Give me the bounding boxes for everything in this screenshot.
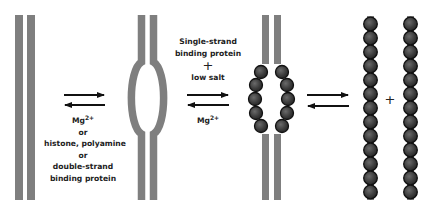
step2-reverse-condition: Mg2+ bbox=[186, 112, 230, 127]
double-strand-label: double-strand bbox=[44, 161, 122, 173]
histone-polyamine-label: histone, polyamine bbox=[44, 138, 122, 150]
stage-4-coated-strand-right bbox=[404, 16, 418, 200]
strand-left bbox=[15, 15, 23, 200]
mg-label: Mg2+ bbox=[44, 112, 122, 127]
stage-2-bubble bbox=[131, 15, 163, 200]
stage-1-double-strand bbox=[15, 15, 35, 200]
or-label: or bbox=[44, 127, 122, 139]
plus-sign: + bbox=[172, 59, 244, 72]
stage-4-coated-strand-left bbox=[364, 16, 378, 200]
equilibrium-arrows-2 bbox=[187, 95, 229, 105]
low-salt-label: low salt bbox=[172, 72, 244, 84]
step1-conditions: Mg2+ or histone, polyamine or double-str… bbox=[44, 112, 122, 184]
or-label-2: or bbox=[44, 150, 122, 162]
stage-3-coated-bubble bbox=[249, 15, 295, 200]
plus-sign-final: + bbox=[384, 93, 396, 106]
strand-right bbox=[27, 15, 35, 200]
strand-right bbox=[154, 15, 164, 200]
strand-left bbox=[131, 15, 141, 200]
equilibrium-arrows-1 bbox=[64, 95, 105, 105]
binding-protein-label: binding protein bbox=[44, 173, 122, 185]
step2-conditions: Single-strand binding protein + low salt bbox=[172, 36, 244, 84]
equilibrium-arrows-3 bbox=[307, 95, 349, 106]
single-strand-label: Single-strand bbox=[172, 36, 244, 48]
